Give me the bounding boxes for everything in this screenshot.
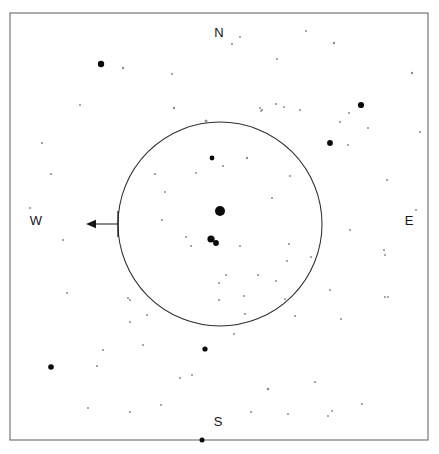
- star-marker: [50, 173, 52, 175]
- star-marker: [339, 121, 341, 123]
- star-marker: [41, 142, 43, 144]
- star-marker: [250, 411, 252, 413]
- star-marker: [286, 260, 288, 262]
- star-marker: [48, 364, 54, 370]
- star-marker: [225, 274, 227, 276]
- star-marker: [190, 245, 192, 247]
- star-marker: [215, 206, 225, 216]
- star-marker: [200, 438, 205, 443]
- star-marker: [271, 197, 273, 199]
- star-marker: [161, 219, 163, 221]
- star-marker: [260, 110, 262, 112]
- star-marker: [411, 72, 413, 74]
- star-marker: [218, 299, 220, 301]
- cardinal-label-south: S: [214, 414, 223, 429]
- star-marker: [327, 415, 329, 417]
- star-marker: [284, 298, 286, 300]
- star-marker: [386, 179, 388, 181]
- star-marker: [287, 413, 289, 415]
- star-marker: [191, 374, 193, 376]
- star-marker: [246, 157, 248, 159]
- chart-frame-border: [10, 13, 428, 440]
- star-marker: [289, 175, 291, 177]
- star-marker: [358, 102, 364, 108]
- star-marker: [415, 209, 417, 211]
- star-marker: [310, 256, 312, 258]
- star-chart-canvas: NESW: [0, 0, 439, 454]
- star-marker: [154, 173, 156, 175]
- star-marker: [96, 365, 98, 367]
- star-marker: [288, 243, 290, 245]
- star-marker: [314, 381, 316, 383]
- star-marker: [195, 172, 197, 174]
- star-marker: [127, 297, 129, 299]
- star-marker: [231, 43, 233, 45]
- star-marker: [329, 289, 331, 291]
- star-marker: [213, 240, 219, 246]
- star-marker: [275, 103, 277, 105]
- cardinal-label-east: E: [405, 213, 414, 228]
- star-marker: [142, 344, 144, 346]
- star-marker: [294, 315, 296, 317]
- star-marker: [218, 282, 220, 284]
- star-marker: [210, 156, 215, 161]
- star-marker: [267, 388, 270, 391]
- cardinal-label-north: N: [214, 25, 223, 40]
- star-marker: [62, 239, 64, 241]
- star-marker: [185, 236, 187, 238]
- star-marker: [361, 403, 363, 405]
- star-marker: [276, 58, 278, 60]
- star-marker: [384, 254, 386, 256]
- star-marker: [102, 349, 104, 351]
- star-marker: [419, 131, 421, 133]
- star-marker: [171, 73, 173, 75]
- star-marker: [340, 318, 342, 320]
- star-marker: [384, 296, 386, 298]
- star-marker: [327, 140, 333, 146]
- star-marker: [275, 280, 277, 282]
- star-chart-root: NESW: [0, 0, 439, 454]
- star-marker: [383, 249, 385, 251]
- star-marker: [205, 120, 208, 123]
- cardinal-label-west: W: [30, 213, 43, 228]
- star-marker: [333, 42, 335, 44]
- star-marker: [347, 144, 349, 146]
- star-marker: [305, 30, 307, 32]
- star-marker: [387, 296, 389, 298]
- star-marker: [202, 346, 207, 351]
- star-marker: [233, 333, 235, 335]
- star-marker: [222, 165, 224, 167]
- star-marker: [129, 321, 131, 323]
- star-marker: [348, 112, 350, 114]
- star-marker: [239, 36, 241, 38]
- star-marker: [129, 299, 131, 301]
- star-marker: [173, 107, 175, 109]
- star-marker: [367, 127, 369, 129]
- star-marker: [259, 107, 261, 109]
- star-marker: [164, 191, 166, 193]
- star-marker: [87, 407, 89, 409]
- star-marker: [179, 377, 181, 379]
- star-marker: [160, 404, 162, 406]
- star-marker: [122, 67, 124, 69]
- star-marker: [146, 314, 148, 316]
- star-marker: [244, 313, 246, 315]
- star-marker: [349, 229, 351, 231]
- star-marker: [331, 410, 333, 412]
- star-marker: [66, 292, 68, 294]
- star-marker: [283, 106, 285, 108]
- star-marker: [98, 61, 104, 67]
- star-marker: [239, 245, 241, 247]
- star-marker: [129, 411, 131, 413]
- star-marker: [79, 104, 81, 106]
- star-marker: [243, 295, 245, 297]
- star-marker: [299, 109, 301, 111]
- star-marker: [29, 207, 31, 209]
- star-marker: [257, 274, 259, 276]
